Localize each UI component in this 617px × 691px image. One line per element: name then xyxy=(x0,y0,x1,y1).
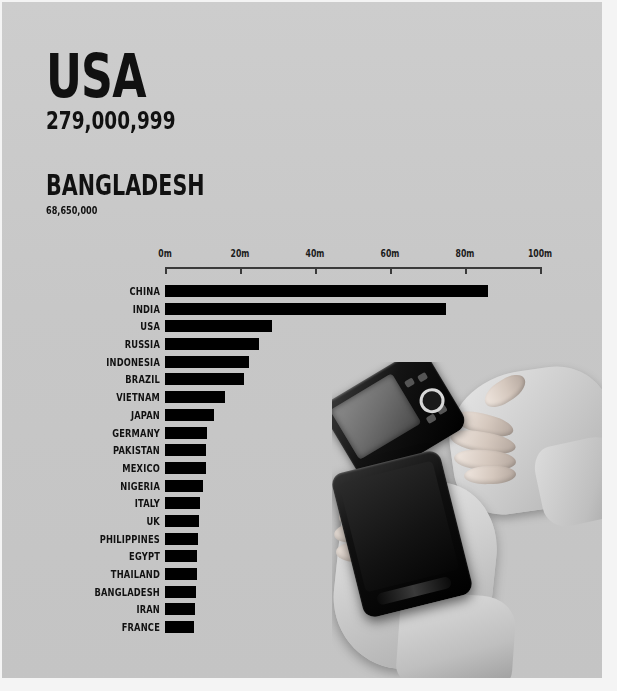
bar-row-label-wrap: ITALY xyxy=(10,497,160,509)
bar-row[interactable]: USA xyxy=(2,320,602,338)
bar-row-label: BRAZIL xyxy=(28,373,160,385)
bar-row-label: MEXICO xyxy=(28,462,160,474)
bar[interactable] xyxy=(165,586,196,598)
bar-chart: 0m20m40m60m80m100m CHINAINDIAUSARUSSIAIN… xyxy=(2,2,602,678)
bar[interactable] xyxy=(165,497,200,509)
bar-row[interactable]: UK xyxy=(2,515,602,533)
bar-row-label-wrap: INDONESIA xyxy=(10,356,160,368)
bar-row-label: BANGLADESH xyxy=(28,586,160,598)
x-axis-tick-labels: 0m20m40m60m80m100m xyxy=(2,248,602,262)
x-axis-tick-label: 60m xyxy=(381,248,400,259)
bar-row-label-wrap: NIGERIA xyxy=(10,480,160,492)
bar-row-label-wrap: INDIA xyxy=(10,303,160,315)
bar-row[interactable]: INDONESIA xyxy=(2,356,602,374)
bar-row-label: INDONESIA xyxy=(28,356,160,368)
x-axis-line xyxy=(165,267,540,269)
bar-row[interactable]: FRANCE xyxy=(2,621,602,639)
bar[interactable] xyxy=(165,427,207,439)
bar-row-label-wrap: GERMANY xyxy=(10,427,160,439)
x-axis-tick xyxy=(540,267,542,274)
x-axis-tick xyxy=(390,267,392,274)
x-axis-tick xyxy=(165,267,167,274)
bar-row-label-wrap: PAKISTAN xyxy=(10,444,160,456)
bar-row-label: JAPAN xyxy=(28,409,160,421)
bar-row[interactable]: GERMANY xyxy=(2,427,602,445)
bar-row-label-wrap: VIETNAM xyxy=(10,391,160,403)
bar-row-label-wrap: CHINA xyxy=(10,285,160,297)
bar[interactable] xyxy=(165,533,198,545)
x-axis-tick-label: 40m xyxy=(306,248,325,259)
bar-row-label-wrap: THAILAND xyxy=(10,568,160,580)
bar-row-label: NIGERIA xyxy=(28,480,160,492)
bar[interactable] xyxy=(165,568,197,580)
bar[interactable] xyxy=(165,409,214,421)
x-axis-tick-label: 20m xyxy=(231,248,250,259)
bar-row[interactable]: INDIA xyxy=(2,303,602,321)
bar[interactable] xyxy=(165,391,225,403)
bar-row-label: VIETNAM xyxy=(28,391,160,403)
bar-row-label: CHINA xyxy=(28,285,160,297)
bar[interactable] xyxy=(165,444,206,456)
bar-row-label: USA xyxy=(28,320,160,332)
bar-row[interactable]: EGYPT xyxy=(2,550,602,568)
bar-row-label-wrap: PHILIPPINES xyxy=(10,533,160,545)
bar-row-label: FRANCE xyxy=(28,621,160,633)
x-axis-tick xyxy=(240,267,242,274)
bar[interactable] xyxy=(165,621,194,633)
bar[interactable] xyxy=(165,356,249,368)
bar-row-label: PAKISTAN xyxy=(28,444,160,456)
bar-row-label: INDIA xyxy=(28,303,160,315)
bar-row-label: ITALY xyxy=(28,497,160,509)
bar-row[interactable]: MEXICO xyxy=(2,462,602,480)
bar[interactable] xyxy=(165,320,272,332)
bar-row[interactable]: ITALY xyxy=(2,497,602,515)
bar-row[interactable]: IRAN xyxy=(2,603,602,621)
bar-row[interactable]: BANGLADESH xyxy=(2,586,602,604)
bar-row[interactable]: CHINA xyxy=(2,285,602,303)
bar-row-label: EGYPT xyxy=(28,550,160,562)
bar-row-label: IRAN xyxy=(28,603,160,615)
x-axis-tick xyxy=(465,267,467,274)
bar-row-label-wrap: BANGLADESH xyxy=(10,586,160,598)
bar-row[interactable]: VIETNAM xyxy=(2,391,602,409)
bar-row[interactable]: JAPAN xyxy=(2,409,602,427)
bar-row[interactable]: BRAZIL xyxy=(2,373,602,391)
bar[interactable] xyxy=(165,285,488,297)
bar-rows: CHINAINDIAUSARUSSIAINDONESIABRAZILVIETNA… xyxy=(2,285,602,639)
bar[interactable] xyxy=(165,550,197,562)
bar[interactable] xyxy=(165,462,206,474)
x-axis-tick-label: 0m xyxy=(158,248,171,259)
bar-row[interactable]: PHILIPPINES xyxy=(2,533,602,551)
bar-row[interactable]: RUSSIA xyxy=(2,338,602,356)
bar-row[interactable]: THAILAND xyxy=(2,568,602,586)
bar-row-label: UK xyxy=(28,515,160,527)
bar[interactable] xyxy=(165,338,259,350)
x-axis-tick-label: 100m xyxy=(528,248,552,259)
bar-row-label-wrap: IRAN xyxy=(10,603,160,615)
bar[interactable] xyxy=(165,480,203,492)
bar-row-label-wrap: EGYPT xyxy=(10,550,160,562)
bar-row-label-wrap: MEXICO xyxy=(10,462,160,474)
bar-row-label: GERMANY xyxy=(28,427,160,439)
bar-row-label-wrap: BRAZIL xyxy=(10,373,160,385)
bar-row-label: THAILAND xyxy=(28,568,160,580)
infographic-panel: USA 279,000,999 BANGLADESH 68,650,000 0m… xyxy=(2,2,602,678)
bar[interactable] xyxy=(165,515,199,527)
bar-row-label-wrap: JAPAN xyxy=(10,409,160,421)
x-axis-tick-label: 80m xyxy=(456,248,475,259)
bar-row[interactable]: PAKISTAN xyxy=(2,444,602,462)
bar-row-label: RUSSIA xyxy=(28,338,160,350)
x-axis-tick xyxy=(315,267,317,274)
infographic-canvas: USA 279,000,999 BANGLADESH 68,650,000 0m… xyxy=(0,0,617,691)
bar[interactable] xyxy=(165,303,446,315)
bar-row-label: PHILIPPINES xyxy=(28,533,160,545)
bar[interactable] xyxy=(165,603,195,615)
bar-row-label-wrap: UK xyxy=(10,515,160,527)
bar-row-label-wrap: USA xyxy=(10,320,160,332)
bar-row-label-wrap: RUSSIA xyxy=(10,338,160,350)
bar-row-label-wrap: FRANCE xyxy=(10,621,160,633)
bar-row[interactable]: NIGERIA xyxy=(2,480,602,498)
bar[interactable] xyxy=(165,373,244,385)
